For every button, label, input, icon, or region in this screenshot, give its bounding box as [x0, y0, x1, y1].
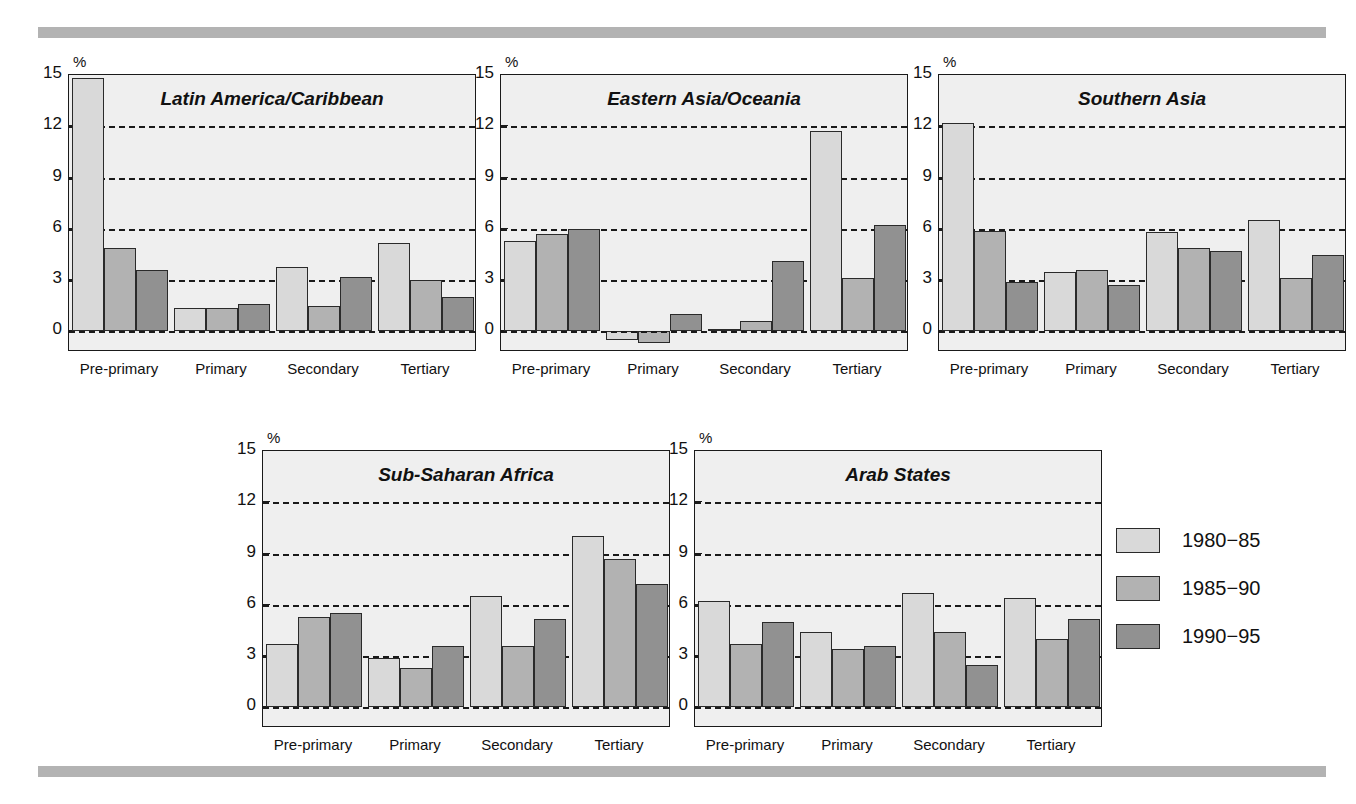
- zero-baseline: [69, 331, 475, 333]
- gridline: [69, 126, 475, 128]
- x-axis-category-label: Pre-primary: [262, 736, 364, 753]
- gridline: [501, 126, 907, 128]
- bar: [1006, 282, 1038, 332]
- bar: [902, 593, 934, 708]
- y-axis-tick-label: 12: [468, 114, 494, 134]
- bar: [810, 131, 842, 331]
- bar: [536, 234, 568, 331]
- x-axis-category-label: Primary: [796, 736, 898, 753]
- y-axis-unit-label: %: [699, 429, 712, 446]
- x-axis-category-label: Tertiary: [806, 360, 908, 377]
- gridline: [939, 126, 1345, 128]
- bar: [730, 644, 762, 707]
- y-axis-tick-label: 3: [906, 268, 932, 288]
- bar: [1068, 619, 1100, 708]
- x-axis-category-label: Secondary: [466, 736, 568, 753]
- y-axis-unit-label: %: [943, 53, 956, 70]
- bar: [174, 308, 206, 332]
- y-axis-tick-label: 12: [230, 490, 256, 510]
- gridline: [501, 178, 907, 180]
- bar: [1248, 220, 1280, 331]
- y-axis-unit-label: %: [505, 53, 518, 70]
- y-axis-tick-label: 0: [230, 695, 256, 715]
- y-axis-tick-label: 9: [468, 166, 494, 186]
- gridline: [501, 229, 907, 231]
- bar: [308, 306, 340, 332]
- bar: [340, 277, 372, 332]
- y-axis-tick-label: 3: [230, 644, 256, 664]
- bar: [504, 241, 536, 332]
- bar: [432, 646, 464, 708]
- legend-label: 1990−95: [1182, 625, 1260, 648]
- legend-item: 1985−90: [1116, 576, 1260, 601]
- x-axis-category-label: Primary: [602, 360, 704, 377]
- gridline: [263, 502, 669, 504]
- bar: [1146, 232, 1178, 331]
- gridline: [695, 554, 1101, 556]
- legend-swatch: [1116, 528, 1160, 553]
- x-axis-category-label: Pre-primary: [68, 360, 170, 377]
- y-axis-tick-label: 12: [36, 114, 62, 134]
- gridline: [69, 178, 475, 180]
- bar: [1004, 598, 1036, 707]
- x-axis-category-label: Tertiary: [568, 736, 670, 753]
- x-axis-category-label: Secondary: [1142, 360, 1244, 377]
- bar: [874, 225, 906, 331]
- bar: [534, 619, 566, 708]
- bar: [698, 601, 730, 707]
- legend-label: 1985−90: [1182, 577, 1260, 600]
- bar: [762, 622, 794, 707]
- x-axis-category-label: Secondary: [704, 360, 806, 377]
- bar: [934, 632, 966, 707]
- x-axis-category-label: Pre-primary: [694, 736, 796, 753]
- y-axis-unit-label: %: [73, 53, 86, 70]
- bar: [832, 649, 864, 707]
- y-axis-tick-label: 15: [468, 63, 494, 83]
- bar: [568, 229, 600, 332]
- x-axis-category-label: Secondary: [898, 736, 1000, 753]
- y-axis-tick-label: 9: [36, 166, 62, 186]
- y-axis-tick-label: 3: [36, 268, 62, 288]
- bar: [864, 646, 896, 708]
- bar: [136, 270, 168, 332]
- bar: [266, 644, 298, 707]
- x-axis-category-label: Primary: [364, 736, 466, 753]
- zero-baseline: [695, 707, 1101, 709]
- y-axis-tick-label: 3: [468, 268, 494, 288]
- x-axis-category-label: Secondary: [272, 360, 374, 377]
- plot-area: [938, 74, 1346, 351]
- y-axis-tick-label: 9: [662, 542, 688, 562]
- x-axis-category-label: Primary: [170, 360, 272, 377]
- bar: [772, 261, 804, 331]
- bar: [378, 243, 410, 332]
- y-axis-tick-label: 15: [36, 63, 62, 83]
- bar: [1036, 639, 1068, 707]
- legend-swatch: [1116, 624, 1160, 649]
- bar: [72, 78, 104, 331]
- top-divider-rule: [38, 27, 1326, 38]
- gridline: [939, 178, 1345, 180]
- y-axis-tick-label: 15: [230, 439, 256, 459]
- bar: [502, 646, 534, 708]
- legend-item: 1990−95: [1116, 624, 1260, 649]
- y-axis-tick-label: 0: [36, 319, 62, 339]
- x-axis-category-label: Pre-primary: [938, 360, 1040, 377]
- bottom-divider-rule: [38, 766, 1326, 777]
- x-axis-category-label: Pre-primary: [500, 360, 602, 377]
- bar: [470, 596, 502, 707]
- bar: [206, 308, 238, 332]
- y-axis-tick-label: 12: [662, 490, 688, 510]
- y-axis-tick-label: 15: [906, 63, 932, 83]
- bar: [276, 267, 308, 332]
- bar: [368, 658, 400, 708]
- bar: [442, 297, 474, 331]
- y-axis-tick-label: 6: [906, 217, 932, 237]
- zero-baseline: [263, 707, 669, 709]
- bar: [740, 321, 772, 331]
- bar: [238, 304, 270, 331]
- bar: [1178, 248, 1210, 332]
- x-axis-category-label: Tertiary: [1000, 736, 1102, 753]
- bar: [330, 613, 362, 707]
- bar: [842, 278, 874, 331]
- y-axis-tick-label: 12: [906, 114, 932, 134]
